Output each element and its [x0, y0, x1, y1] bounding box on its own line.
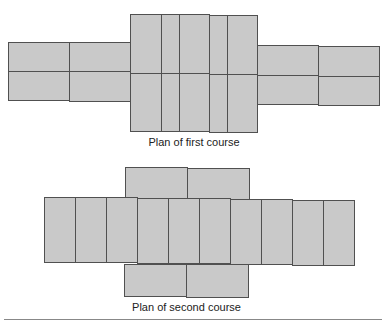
- first-course-left-arm-brick: [69, 42, 131, 72]
- second-course-middle-brick: [75, 197, 107, 263]
- first-course-center-brick: [161, 73, 180, 132]
- second-course-middle-brick: [230, 199, 262, 265]
- second-course-middle-brick: [168, 198, 200, 264]
- second-course-middle-brick: [137, 198, 169, 264]
- brick-course-diagram: Plan of first course Plan of second cour…: [0, 0, 385, 326]
- first-course-left-arm-brick: [8, 71, 70, 101]
- first-course-center-brick: [227, 15, 258, 75]
- first-course-center-brick: [130, 73, 162, 132]
- second-course-middle-brick: [292, 200, 324, 266]
- first-course-right-arm-brick: [318, 46, 380, 77]
- second-course-middle-brick: [199, 198, 231, 264]
- second-course-caption: Plan of second course: [124, 301, 249, 313]
- divider-line: [4, 319, 382, 320]
- second-course-middle-brick: [323, 200, 355, 266]
- first-course-left-arm-brick: [69, 71, 131, 102]
- first-course-center-brick: [179, 14, 210, 74]
- first-course-right-arm-brick: [257, 45, 319, 76]
- first-course-center-brick: [179, 73, 210, 132]
- first-course-right-arm-brick: [257, 75, 319, 105]
- first-course-right-arm-brick: [318, 76, 380, 106]
- second-course-top-brick: [125, 167, 188, 199]
- second-course-middle-brick: [261, 199, 293, 265]
- first-course-left-arm-brick: [8, 42, 70, 72]
- first-course-center-brick: [227, 74, 258, 133]
- second-course-bottom-brick: [186, 264, 249, 298]
- first-course-center-brick: [161, 14, 180, 74]
- first-course-center-brick: [209, 74, 228, 133]
- first-course-center-brick: [209, 15, 228, 75]
- first-course-center-brick: [130, 14, 162, 74]
- second-course-top-brick: [187, 168, 250, 200]
- first-course-caption: Plan of first course: [130, 136, 258, 148]
- second-course-middle-brick: [106, 197, 138, 263]
- second-course-bottom-brick: [124, 264, 187, 297]
- second-course-middle-brick: [44, 197, 76, 263]
